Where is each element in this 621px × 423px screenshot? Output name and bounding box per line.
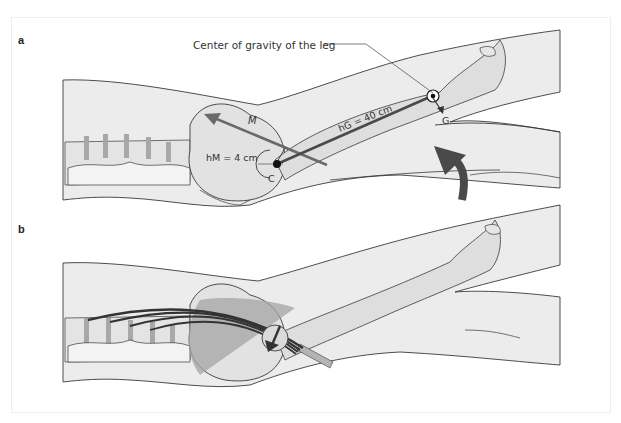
center-of-gravity-label: Center of gravity of the leg xyxy=(193,39,335,51)
gravity-force-label: G xyxy=(442,115,449,126)
rotation-center-label: C xyxy=(268,173,275,184)
anatomy-diagram: Center of gravity of the leg M hM = 4 cm… xyxy=(0,0,621,423)
spine-a xyxy=(65,134,190,185)
panel-b-illustration xyxy=(63,205,560,387)
panel-a-illustration xyxy=(63,30,560,206)
spine-b xyxy=(65,316,190,362)
muscle-force-label: M xyxy=(248,115,257,126)
rotation-center-dot xyxy=(273,160,281,168)
muscle-lever-arm-label: hM = 4 cm xyxy=(206,152,258,163)
